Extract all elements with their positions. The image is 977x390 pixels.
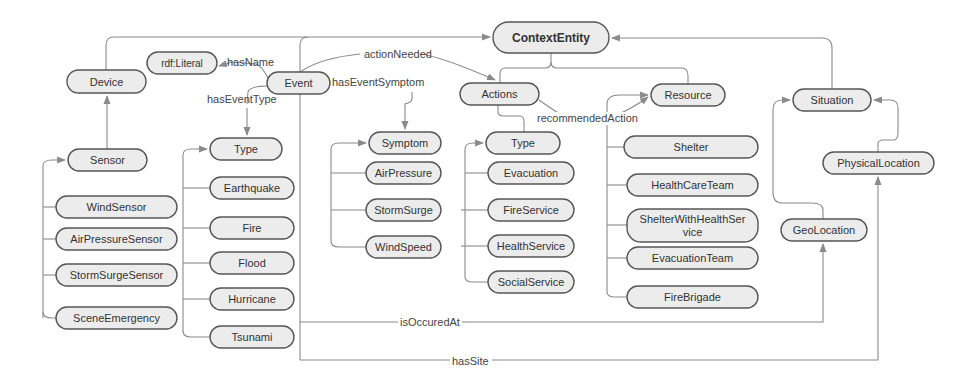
svg-text:PhysicalLocation: PhysicalLocation xyxy=(837,157,920,169)
node-device[interactable]: Device xyxy=(67,70,146,93)
edge-tsunami xyxy=(183,331,210,337)
svg-text:Sensor: Sensor xyxy=(90,154,125,166)
ontology-diagram: hasName hasEventType actionNeeded hasEve… xyxy=(0,0,977,390)
svg-text:ShelterWithHealthSer: ShelterWithHealthSer xyxy=(640,213,746,225)
edge-contextentity-actions-resource xyxy=(500,53,551,83)
edge-event-contextentity xyxy=(300,37,308,72)
node-firebrigade[interactable]: FireBrigade xyxy=(627,286,758,308)
svg-text:StormSurge: StormSurge xyxy=(374,204,433,216)
svg-text:EvacuationTeam: EvacuationTeam xyxy=(652,252,733,264)
svg-text:WindSensor: WindSensor xyxy=(87,201,147,213)
label-actionneeded: actionNeeded xyxy=(364,48,432,60)
node-stormsurgesensor[interactable]: StormSurgeSensor xyxy=(56,264,177,286)
node-airpressuresensor[interactable]: AirPressureSensor xyxy=(56,228,177,250)
svg-text:Resource: Resource xyxy=(664,89,711,101)
svg-text:Earthquake: Earthquake xyxy=(224,182,280,194)
edge-sceneemergency xyxy=(43,312,56,318)
edge-socialservice xyxy=(465,277,488,282)
label-hasname: hasName xyxy=(227,56,274,68)
node-contextentity[interactable]: ContextEntity xyxy=(493,22,609,53)
node-evacuationteam[interactable]: EvacuationTeam xyxy=(627,247,758,269)
svg-text:SceneEmergency: SceneEmergency xyxy=(73,312,160,324)
node-resource[interactable]: Resource xyxy=(651,84,725,106)
svg-text:rdf:Literal: rdf:Literal xyxy=(161,58,203,69)
svg-text:Tsunami: Tsunami xyxy=(232,331,273,343)
node-symptom[interactable]: Symptom xyxy=(369,132,441,154)
svg-text:Type: Type xyxy=(511,137,535,149)
edge-symptom-subclasses xyxy=(331,143,366,241)
node-windsensor[interactable]: WindSensor xyxy=(56,196,177,218)
node-sensor[interactable]: Sensor xyxy=(68,149,147,171)
svg-text:HealthCareTeam: HealthCareTeam xyxy=(651,179,734,191)
svg-text:AirPressureSensor: AirPressureSensor xyxy=(70,233,163,245)
edge-geolocation-situation xyxy=(773,100,823,219)
svg-text:ContextEntity: ContextEntity xyxy=(512,31,590,45)
edge-situation-contextentity xyxy=(612,38,832,89)
edge-contextentity-resource xyxy=(551,62,688,84)
node-tsunami[interactable]: Tsunami xyxy=(210,326,294,348)
svg-text:WindSpeed: WindSpeed xyxy=(375,241,432,253)
edge-actions-type xyxy=(498,105,524,132)
svg-text:Fire: Fire xyxy=(243,222,262,234)
node-actions[interactable]: Actions xyxy=(460,83,539,105)
label-recommendedaction: recommendedAction xyxy=(537,112,638,124)
edge-event-haseventsymptom xyxy=(405,92,412,129)
label-haseventsymptom: hasEventSymptom xyxy=(332,76,424,88)
node-earthquake[interactable]: Earthquake xyxy=(210,177,294,199)
svg-text:FireBrigade: FireBrigade xyxy=(664,291,721,303)
svg-text:SocialService: SocialService xyxy=(498,276,565,288)
node-windspeed[interactable]: WindSpeed xyxy=(366,236,441,258)
node-shelter[interactable]: Shelter xyxy=(624,136,758,158)
svg-text:Actions: Actions xyxy=(481,88,518,100)
svg-text:Flood: Flood xyxy=(238,257,266,269)
node-fire[interactable]: Fire xyxy=(210,217,294,239)
node-flood[interactable]: Flood xyxy=(210,252,294,274)
svg-text:vice: vice xyxy=(683,226,703,238)
node-airpressure[interactable]: AirPressure xyxy=(366,162,441,184)
svg-text:HealthService: HealthService xyxy=(497,240,565,252)
svg-text:StormSurgeSensor: StormSurgeSensor xyxy=(70,269,164,281)
node-event[interactable]: Event xyxy=(267,72,330,94)
node-fireservice[interactable]: FireService xyxy=(488,199,574,221)
label-isoccuredat: isOccuredAt xyxy=(400,316,460,328)
node-healthcareteam[interactable]: HealthCareTeam xyxy=(627,174,758,196)
edge-eventtype-subclasses xyxy=(183,149,207,332)
svg-text:Situation: Situation xyxy=(811,94,854,106)
svg-text:Symptom: Symptom xyxy=(382,137,428,149)
edge-windspeed xyxy=(331,241,366,247)
edge-resource-subclasses xyxy=(607,128,627,297)
svg-text:Evacuation: Evacuation xyxy=(504,167,558,179)
edge-physicallocation-situation xyxy=(874,100,898,152)
svg-text:Device: Device xyxy=(90,76,124,88)
svg-text:Type: Type xyxy=(234,143,258,155)
node-evacuation[interactable]: Evacuation xyxy=(488,162,574,184)
node-action-type[interactable]: Type xyxy=(486,132,560,154)
node-healthservice[interactable]: HealthService xyxy=(488,235,574,257)
node-physicallocation[interactable]: PhysicalLocation xyxy=(823,152,934,174)
svg-text:Event: Event xyxy=(284,77,312,89)
node-socialservice[interactable]: SocialService xyxy=(488,271,574,293)
node-stormsurge[interactable]: StormSurge xyxy=(366,199,441,221)
svg-text:Shelter: Shelter xyxy=(674,141,709,153)
node-situation[interactable]: Situation xyxy=(793,89,871,111)
node-hurricane[interactable]: Hurricane xyxy=(210,288,294,310)
label-haseventtype: hasEventType xyxy=(207,93,277,105)
node-sceneemergency[interactable]: SceneEmergency xyxy=(56,307,177,329)
label-hassite: hasSite xyxy=(452,355,489,367)
node-geolocation[interactable]: GeoLocation xyxy=(781,219,867,241)
node-shelterwithhealthservice[interactable]: ShelterWithHealthSer vice xyxy=(627,209,758,242)
node-event-type[interactable]: Type xyxy=(210,138,282,160)
svg-text:GeoLocation: GeoLocation xyxy=(793,224,855,236)
svg-text:Hurricane: Hurricane xyxy=(228,293,276,305)
node-rdfliteral[interactable]: rdf:Literal xyxy=(147,52,217,74)
svg-text:FireService: FireService xyxy=(503,204,559,216)
svg-text:AirPressure: AirPressure xyxy=(375,167,432,179)
